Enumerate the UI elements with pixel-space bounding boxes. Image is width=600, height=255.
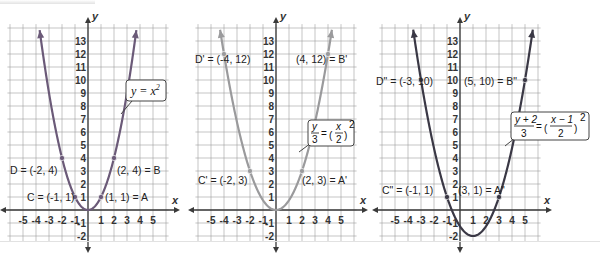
equation-callout: y = x2 bbox=[121, 80, 166, 114]
svg-text:1: 1 bbox=[80, 192, 86, 203]
svg-text:5: 5 bbox=[522, 215, 528, 226]
svg-text:-5: -5 bbox=[19, 215, 28, 226]
svg-text:1: 1 bbox=[98, 215, 104, 226]
point-label-a-prime: (2, 3) = A' bbox=[302, 174, 347, 186]
point-label-b-double-prime: (5, 10) = B" bbox=[464, 75, 517, 87]
svg-text:4: 4 bbox=[509, 215, 515, 226]
svg-text:5: 5 bbox=[338, 215, 344, 226]
svg-text:-4: -4 bbox=[32, 215, 41, 226]
svg-text:4: 4 bbox=[268, 153, 274, 164]
graph-parent-parabola: xy -5-4-3-2-11234513121110987654321-1-2 … bbox=[0, 0, 200, 255]
svg-text:2: 2 bbox=[111, 215, 117, 226]
svg-text:-3: -3 bbox=[45, 215, 54, 226]
svg-text:-1: -1 bbox=[77, 218, 86, 229]
svg-text:2: 2 bbox=[80, 179, 86, 190]
svg-text:1: 1 bbox=[268, 192, 274, 203]
svg-text:12: 12 bbox=[75, 49, 87, 60]
svg-text:8: 8 bbox=[452, 101, 458, 112]
point-label-d-prime: D' = (-4, 12) bbox=[195, 53, 250, 65]
svg-text:3: 3 bbox=[80, 166, 86, 177]
graph-translated-parabola: xy -5-4-3-2-11234513121110987654321-1-2 … bbox=[372, 0, 600, 255]
equation-callout: y 3 = ( x 2 ) 2 bbox=[299, 119, 355, 152]
eq-rhs-num: x bbox=[335, 121, 342, 132]
eq-lhs-num: y bbox=[311, 121, 318, 132]
svg-text:4: 4 bbox=[80, 153, 86, 164]
svg-text:8: 8 bbox=[80, 101, 86, 112]
svg-text:12: 12 bbox=[263, 49, 275, 60]
point-label-d: D = (-2, 4) bbox=[10, 164, 58, 176]
svg-text:1: 1 bbox=[470, 215, 476, 226]
svg-text:y: y bbox=[91, 10, 99, 22]
svg-text:6: 6 bbox=[80, 127, 86, 138]
eq-lhs-den: 3 bbox=[521, 128, 527, 139]
svg-text:-4: -4 bbox=[404, 215, 413, 226]
svg-text:9: 9 bbox=[452, 88, 458, 99]
eq-rhs-den: 2 bbox=[336, 134, 342, 145]
svg-text:7: 7 bbox=[268, 114, 274, 125]
svg-text:x: x bbox=[171, 194, 179, 206]
svg-text:4: 4 bbox=[325, 215, 331, 226]
svg-text:=: = bbox=[536, 121, 542, 132]
svg-text:11: 11 bbox=[263, 62, 274, 73]
svg-text:6: 6 bbox=[268, 127, 274, 138]
svg-text:13: 13 bbox=[75, 36, 87, 47]
svg-text:x: x bbox=[543, 194, 551, 206]
point-label-c-prime: C' = (-2, 3) bbox=[198, 174, 248, 186]
svg-text:-2: -2 bbox=[58, 215, 67, 226]
svg-text:4: 4 bbox=[137, 215, 143, 226]
svg-text:10: 10 bbox=[447, 75, 459, 86]
svg-text:5: 5 bbox=[150, 215, 156, 226]
svg-text:6: 6 bbox=[452, 127, 458, 138]
svg-text:9: 9 bbox=[268, 88, 274, 99]
svg-text:2: 2 bbox=[268, 179, 274, 190]
svg-text:12: 12 bbox=[447, 49, 459, 60]
svg-text:3: 3 bbox=[124, 215, 130, 226]
eq-lhs-num: y + 2 bbox=[514, 114, 537, 125]
svg-text:11: 11 bbox=[447, 62, 458, 73]
point-label-b-prime: (4, 12) = B' bbox=[296, 53, 347, 65]
svg-text:-2: -2 bbox=[246, 215, 255, 226]
svg-text:10: 10 bbox=[75, 75, 87, 86]
svg-text:7: 7 bbox=[80, 114, 86, 125]
svg-text:3: 3 bbox=[312, 215, 318, 226]
eq-rhs-den: 2 bbox=[558, 128, 564, 139]
svg-text:): ) bbox=[574, 123, 577, 134]
svg-text:11: 11 bbox=[75, 62, 86, 73]
equation-exponent: 2 bbox=[156, 83, 160, 92]
point-label-c-double-prime: C" = (-1, 1) bbox=[382, 184, 433, 196]
svg-text:5: 5 bbox=[80, 140, 86, 151]
point-label-d-double-prime: D" = (-3, 10) bbox=[376, 75, 433, 87]
svg-text:=: = bbox=[321, 128, 327, 139]
eq-lhs-den: 3 bbox=[312, 134, 318, 145]
svg-text:5: 5 bbox=[268, 140, 274, 151]
eq-rhs-num: x − 1 bbox=[550, 114, 573, 125]
svg-text:-1: -1 bbox=[265, 218, 274, 229]
point-label-c: C = (-1, 1) bbox=[27, 191, 75, 203]
point-label-b: (2, 4) = B bbox=[117, 164, 160, 176]
svg-text:y = x2: y = x2 bbox=[130, 83, 160, 98]
svg-text:x: x bbox=[359, 194, 367, 206]
equation-callout: y + 2 3 = ( x − 1 2 ) 2 bbox=[505, 112, 589, 146]
eq-exponent: 2 bbox=[349, 119, 355, 130]
eq-exponent: 2 bbox=[580, 112, 586, 123]
svg-text:-4: -4 bbox=[220, 215, 229, 226]
svg-text:10: 10 bbox=[263, 75, 275, 86]
equation-text: y = x bbox=[130, 84, 156, 98]
svg-text:5: 5 bbox=[452, 140, 458, 151]
svg-text:9: 9 bbox=[80, 88, 86, 99]
svg-text:13: 13 bbox=[263, 36, 275, 47]
point-label-a-double-prime: (3, 1) = A" bbox=[458, 184, 505, 196]
svg-text:y: y bbox=[463, 10, 471, 22]
svg-text:13: 13 bbox=[447, 36, 459, 47]
svg-text:8: 8 bbox=[268, 101, 274, 112]
svg-text:-3: -3 bbox=[233, 215, 242, 226]
svg-text:-5: -5 bbox=[391, 215, 400, 226]
svg-text:4: 4 bbox=[452, 153, 458, 164]
svg-text:3: 3 bbox=[268, 166, 274, 177]
page-divider bbox=[0, 241, 600, 242]
svg-text:2: 2 bbox=[299, 215, 305, 226]
graph-stretched-parabola: xy -5-4-3-2-11234513121110987654321-1-2 … bbox=[188, 0, 388, 255]
svg-text:1: 1 bbox=[286, 215, 292, 226]
svg-text:-2: -2 bbox=[430, 215, 439, 226]
svg-text:y: y bbox=[279, 10, 287, 22]
